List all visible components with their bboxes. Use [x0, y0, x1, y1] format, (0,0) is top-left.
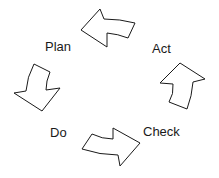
- right-curved-arrow-icon: [82, 128, 140, 166]
- act-label: Act: [152, 42, 171, 55]
- cycle-arrows: [0, 0, 219, 178]
- plan-label: Plan: [45, 40, 71, 53]
- left-curved-arrow-icon: [81, 9, 135, 47]
- up-curved-arrow-icon: [160, 63, 205, 109]
- down-curved-arrow-icon: [14, 64, 60, 111]
- pdca-diagram: Plan Act Do Check: [0, 0, 219, 178]
- do-label: Do: [50, 126, 67, 139]
- check-label: Check: [143, 125, 180, 138]
